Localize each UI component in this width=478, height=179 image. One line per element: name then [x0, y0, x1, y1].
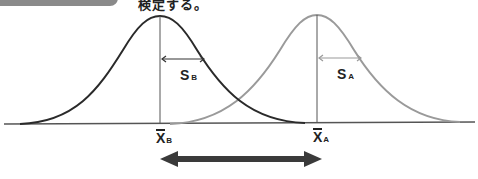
sd-label-b: SB — [180, 66, 197, 84]
sd-label-a: SA — [337, 65, 354, 83]
distribution-diagram — [0, 0, 478, 179]
x-axis-baseline — [4, 122, 475, 124]
sd-arrow-a — [319, 55, 361, 61]
distribution-curve-b — [20, 16, 305, 124]
sd-arrow-b — [162, 56, 204, 62]
mean-label-b: XB — [156, 129, 172, 147]
distribution-curve-a — [170, 15, 460, 124]
mean-difference-arrow — [160, 151, 322, 167]
mean-label-a: XA — [313, 128, 329, 146]
